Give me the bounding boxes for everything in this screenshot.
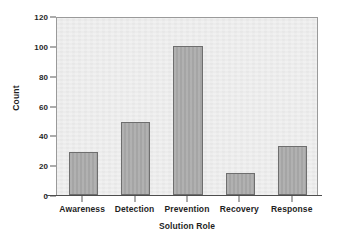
x-axis-tick-mark [82, 196, 83, 202]
x-axis-tick-labels: AwarenessDetectionPreventionRecoveryResp… [56, 204, 318, 218]
x-axis-tick-label-prevention: Prevention [165, 204, 210, 214]
y-axis-tick-labels: 020406080100120 [22, 17, 48, 196]
bars-layer [57, 18, 317, 195]
x-axis-title: Solution Role [56, 221, 318, 231]
x-axis-tick-marks [56, 196, 318, 202]
x-axis-tick-mark [187, 196, 188, 202]
y-axis-tick-label: 60 [39, 102, 48, 111]
x-axis-tick-label-response: Response [271, 204, 312, 214]
bar-prevention [173, 46, 202, 195]
y-axis-tick-label: 40 [39, 132, 48, 141]
y-axis-tick-label: 120 [34, 13, 48, 22]
bar-response [278, 146, 307, 195]
bar-detection [121, 122, 150, 195]
y-axis-tick-label: 80 [39, 72, 48, 81]
bar-recovery [226, 173, 255, 195]
x-axis-tick-mark [134, 196, 135, 202]
y-axis-tick-label: 100 [34, 42, 48, 51]
y-axis-title-text: Count [11, 85, 21, 111]
x-axis-tick-mark [291, 196, 292, 202]
y-axis-tick-label: 20 [39, 162, 48, 171]
x-axis-tick-label-recovery: Recovery [220, 204, 259, 214]
x-axis-tick-label-detection: Detection [115, 204, 155, 214]
y-axis-tick-label: 0 [43, 192, 48, 201]
bar-awareness [69, 152, 98, 195]
x-axis-tick-mark [239, 196, 240, 202]
x-axis-tick-label-awareness: Awareness [59, 204, 105, 214]
bar-chart-figure: Count 020406080100120 AwarenessDetection… [0, 0, 347, 243]
plot-area [56, 17, 318, 196]
